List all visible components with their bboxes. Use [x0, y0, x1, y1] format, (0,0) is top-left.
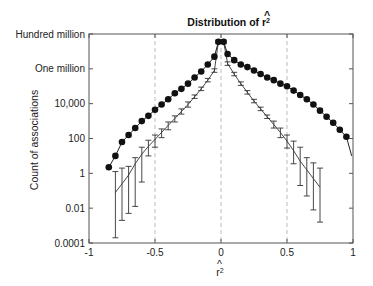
- y-tick-label: Hundred million: [16, 29, 85, 40]
- y-tick-label: 0.0001: [54, 238, 85, 249]
- y-tick-label: 100: [68, 133, 85, 144]
- data-point: [119, 139, 126, 146]
- x-axis-ticks: -1-0.500.51: [85, 34, 357, 258]
- data-point: [112, 153, 119, 160]
- data-point: [244, 64, 251, 71]
- y-tick-label: 0.01: [66, 203, 86, 214]
- data-point: [330, 120, 337, 127]
- circle-series: [106, 39, 352, 171]
- data-point: [106, 164, 113, 171]
- data-point: [290, 87, 297, 94]
- data-point: [343, 133, 350, 140]
- data-point: [139, 118, 146, 125]
- data-point: [251, 67, 258, 74]
- data-point: [165, 96, 172, 103]
- data-point: [271, 77, 278, 84]
- data-point: [297, 92, 304, 99]
- title-hat: ^: [264, 9, 270, 21]
- data-point: [211, 53, 218, 60]
- data-point: [323, 113, 330, 120]
- data-point: [172, 90, 179, 97]
- error-bar-series: [112, 40, 323, 238]
- data-point: [257, 71, 264, 78]
- data-point: [264, 74, 271, 81]
- y-tick-label: One million: [35, 63, 85, 74]
- y-tick-label: 10,000: [54, 98, 85, 109]
- data-point: [191, 74, 198, 81]
- data-point: [198, 68, 205, 75]
- data-point: [310, 101, 317, 108]
- data-point: [284, 83, 291, 90]
- data-point: [178, 86, 185, 93]
- x-label-hat: ^: [217, 258, 222, 270]
- data-point: [125, 132, 132, 139]
- y-axis-label: Count of associations: [28, 90, 40, 190]
- x-tick-label: 0: [218, 247, 224, 258]
- data-point: [185, 80, 192, 87]
- x-tick-label: 0.5: [280, 247, 294, 258]
- data-point: [220, 39, 227, 46]
- grid-lines: [155, 34, 287, 243]
- data-point: [145, 113, 152, 120]
- data-point: [132, 125, 139, 132]
- data-point: [238, 61, 245, 68]
- x-tick-label: -1: [85, 247, 94, 258]
- data-point: [317, 107, 324, 114]
- x-tick-label: 1: [350, 247, 356, 258]
- data-point: [205, 61, 212, 68]
- data-point: [224, 51, 231, 58]
- data-point: [158, 101, 165, 108]
- data-point: [277, 80, 284, 87]
- x-tick-label: -0.5: [146, 247, 164, 258]
- data-point: [231, 57, 238, 64]
- data-point: [337, 126, 344, 133]
- data-point: [152, 106, 159, 113]
- y-axis-ticks: Hundred millionOne million10,00010010.01…: [16, 29, 353, 249]
- data-point: [304, 96, 311, 103]
- y-tick-label: 1: [79, 168, 85, 179]
- chart-title: Distribution of r2: [187, 16, 270, 28]
- chart: Hundred millionOne million10,00010010.01…: [0, 0, 373, 286]
